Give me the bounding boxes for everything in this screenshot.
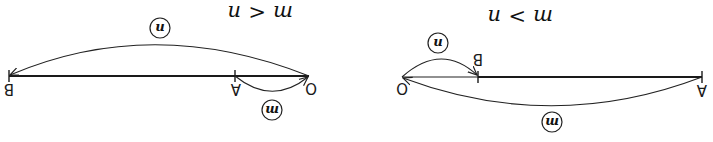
arc-n-label: n (150, 18, 170, 38)
svg-text:n: n (433, 36, 442, 51)
condition-operator: > (508, 5, 526, 29)
arc-m (403, 77, 702, 106)
point-B-label: B (4, 80, 14, 98)
panel-m-less-than-n: m < n O A B n m (4, 1, 317, 120)
panel-m-greater-than-n: m > n A B O n m (396, 5, 707, 132)
arc-m-label: m (262, 100, 282, 120)
condition-lhs: m (273, 1, 293, 25)
condition-rhs: n (227, 1, 241, 25)
point-A-label: A (230, 80, 241, 98)
point-O-label: O (305, 79, 317, 97)
arc-n-label: n (428, 33, 448, 53)
svg-text:m: m (265, 103, 279, 118)
condition-rhs: n (487, 5, 501, 29)
point-A-label: A (696, 81, 707, 99)
number-line-diagram: m < n O A B n m (0, 0, 713, 142)
point-B-label: B (473, 50, 483, 68)
condition-operator: < (248, 1, 266, 25)
condition-lhs: m (533, 5, 553, 29)
condition-right: m > n (487, 5, 553, 29)
condition-left: m < n (227, 1, 293, 25)
svg-text:n: n (155, 21, 164, 36)
arc-m-label: m (542, 112, 562, 132)
arc-m (235, 76, 308, 91)
svg-text:m: m (545, 115, 559, 130)
point-O-label: O (396, 79, 408, 97)
arc-n (402, 59, 477, 77)
arc-n (10, 45, 309, 76)
